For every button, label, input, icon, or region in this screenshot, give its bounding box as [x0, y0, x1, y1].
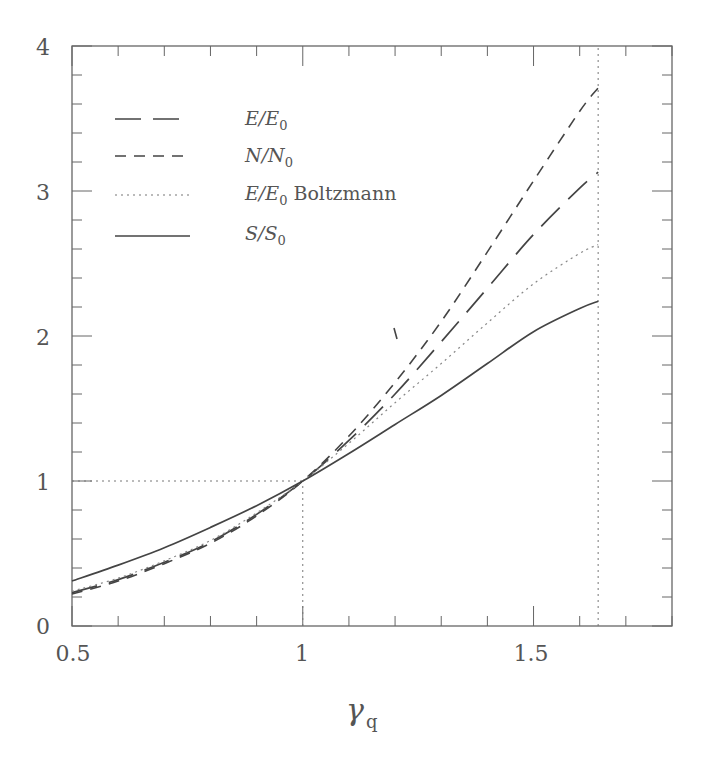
- x-tick-label-1-5: 1.5: [514, 641, 549, 666]
- data-series: [72, 88, 598, 594]
- series-s-s0: [72, 301, 598, 581]
- legend: E/E0 N/N0 E/E0 Boltzmann S/S0: [115, 107, 396, 248]
- legend-item-number: N/N0: [115, 144, 293, 170]
- legend-item-entropy: S/S0: [115, 222, 286, 248]
- y-tick-label-2: 2: [36, 325, 50, 350]
- x-axis-title: γq: [346, 692, 377, 732]
- plot-frame: [72, 46, 672, 626]
- legend-label-boltzmann: E/E0 Boltzmann: [244, 182, 396, 208]
- y-tick-label-0: 0: [36, 614, 50, 639]
- series-e-e0-boltzmann: [72, 245, 598, 592]
- legend-item-energy: E/E0: [115, 107, 287, 133]
- chart-canvas: 0 1 2 3 4 0.5 1 1.5 γq E/E0 N/N0 E/E0 Bo…: [0, 0, 707, 758]
- y-tick-label-3: 3: [36, 180, 50, 205]
- stray-dash-mark: [394, 328, 397, 339]
- x-tick-label-0-5: 0.5: [56, 641, 91, 666]
- x-tick-label-1: 1: [295, 641, 309, 666]
- legend-item-boltzmann: E/E0 Boltzmann: [115, 182, 396, 208]
- legend-label-number: N/N0: [244, 144, 293, 170]
- x-axis-title-sub: q: [366, 711, 378, 732]
- y-tick-label-4: 4: [36, 35, 50, 60]
- plot-border: [72, 46, 672, 626]
- legend-label-energy: E/E0: [244, 107, 287, 133]
- legend-label-entropy: S/S0: [245, 222, 286, 248]
- reference-lines: [72, 46, 598, 626]
- axis-ticks: [72, 46, 672, 626]
- y-tick-label-1: 1: [36, 470, 50, 495]
- x-axis-title-main: γ: [346, 692, 364, 727]
